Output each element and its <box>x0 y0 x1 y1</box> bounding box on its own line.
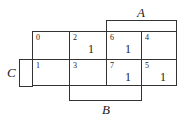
label-c: C <box>7 65 16 81</box>
label-a: A <box>137 5 145 21</box>
cell-value: 1 <box>125 70 131 85</box>
cell-index: 1 <box>36 61 40 70</box>
cell-value: 1 <box>160 70 166 85</box>
kmap-cell: 0 <box>33 32 70 60</box>
label-b: B <box>102 102 110 118</box>
karnaugh-map-grid: 0 2 1 6 1 4 1 3 7 1 5 1 <box>32 31 177 86</box>
kmap-cell: 6 1 <box>107 32 142 60</box>
bracket-c <box>19 59 33 87</box>
kmap-cell: 2 1 <box>70 32 107 60</box>
kmap-cell: 4 <box>142 32 176 60</box>
cell-index: 3 <box>73 61 77 70</box>
kmap-cell: 3 <box>70 60 107 85</box>
cell-index: 6 <box>110 33 114 42</box>
cell-index: 7 <box>110 61 114 70</box>
cell-value: 1 <box>88 42 94 57</box>
cell-index: 4 <box>145 33 149 42</box>
kmap-cell: 5 1 <box>142 60 176 85</box>
bracket-b <box>69 85 142 101</box>
kmap-cell: 7 1 <box>107 60 142 85</box>
cell-index: 2 <box>73 33 77 42</box>
kmap-cell: 1 <box>33 60 70 85</box>
cell-value: 1 <box>125 42 131 57</box>
cell-index: 0 <box>36 33 40 42</box>
cell-index: 5 <box>145 61 149 70</box>
